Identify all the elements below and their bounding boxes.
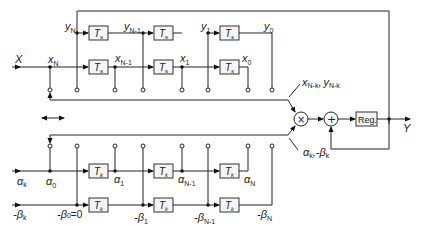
tap[interactable] bbox=[113, 144, 117, 148]
tap[interactable] bbox=[206, 88, 210, 92]
tap[interactable] bbox=[141, 88, 145, 92]
label-beta-k: -βk bbox=[13, 208, 27, 221]
shift-arrow-icon bbox=[41, 116, 64, 121]
label-xN: xN bbox=[47, 53, 59, 67]
output-label: Y bbox=[403, 122, 411, 134]
lower-taps bbox=[48, 144, 274, 148]
tap[interactable] bbox=[48, 144, 52, 148]
tap[interactable] bbox=[141, 144, 145, 148]
tap[interactable] bbox=[180, 88, 184, 92]
lower-selector-bus bbox=[50, 126, 295, 143]
upper-selector-bus bbox=[50, 93, 295, 112]
tap[interactable] bbox=[75, 144, 79, 148]
label-y1: y1 bbox=[200, 20, 211, 34]
label-alpha-N-1: αN-1 bbox=[178, 173, 196, 187]
label-yN: yN bbox=[64, 20, 76, 34]
register-label: Reg. bbox=[358, 115, 377, 125]
tap[interactable] bbox=[180, 144, 184, 148]
lattice-filter-diagram: X Y yN yN-1 y1 y0 xN xN-1 x1 x0 αk α0 α1… bbox=[0, 0, 421, 231]
tap[interactable] bbox=[75, 88, 79, 92]
mult-input-bottom-label: αk,-βk bbox=[303, 146, 330, 159]
label-yN-1: yN-1 bbox=[123, 20, 141, 34]
label-xN-1: xN-1 bbox=[114, 52, 132, 66]
accumulator-section bbox=[289, 84, 410, 150]
tap[interactable] bbox=[48, 88, 52, 92]
tap[interactable] bbox=[113, 88, 117, 92]
label-alpha-k: αk bbox=[17, 175, 27, 188]
label-beta-0: -β0=0 bbox=[57, 208, 83, 220]
label-beta-N: -βN bbox=[257, 208, 272, 222]
tap[interactable] bbox=[246, 88, 250, 92]
label-alpha-1: α1 bbox=[114, 173, 124, 187]
label-x0: x0 bbox=[241, 52, 252, 66]
adder-icon: + bbox=[327, 113, 336, 126]
label-y0: y0 bbox=[263, 20, 274, 34]
label-alpha-N: αN bbox=[244, 173, 255, 187]
label-beta-1: -β1 bbox=[134, 211, 148, 225]
label-x1: x1 bbox=[179, 52, 190, 66]
tap[interactable] bbox=[246, 144, 250, 148]
alpha-delay-line bbox=[12, 148, 248, 178]
mult-input-top-label: xN-k,yN-k bbox=[301, 76, 340, 89]
label-alpha-0: α0 bbox=[46, 175, 56, 189]
tap[interactable] bbox=[206, 144, 210, 148]
tap[interactable] bbox=[270, 144, 274, 148]
upper-taps bbox=[48, 88, 274, 92]
input-label: X bbox=[14, 53, 23, 65]
multiplier-icon: × bbox=[297, 114, 305, 125]
label-beta-N-1: -βN-1 bbox=[194, 211, 215, 225]
tap[interactable] bbox=[270, 88, 274, 92]
